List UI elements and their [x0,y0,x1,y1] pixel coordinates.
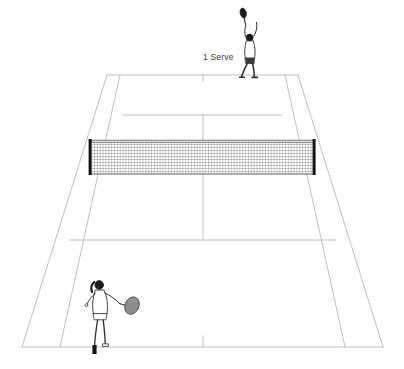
net-mesh [91,141,314,174]
server-right-arm [254,22,257,36]
singles-sideline-right [285,75,345,347]
receiver-head [95,281,104,290]
server-torso [245,41,255,58]
receiver-ponytail [91,282,94,292]
receiver-right-leg [103,320,105,344]
net-post-right [313,139,316,175]
net-post-left [89,139,92,175]
singles-sideline-left [60,75,120,347]
court-svg-canvas [0,0,404,369]
player-server [239,7,257,77]
receiver-right-shoe [103,344,109,347]
receiver-racket-icon [119,295,142,317]
net-top-band [91,140,314,142]
tennis-net [89,139,316,175]
server-racket-icon [239,7,247,25]
receiver-left-leg [95,320,98,345]
serve-label: 1 Serve [203,52,234,62]
doubles-sideline-right [298,75,383,347]
server-left-arm [245,26,246,37]
server-head [246,34,253,41]
player-receiver [85,281,142,354]
receiver-skirt [93,314,107,320]
receiver-left-hand [85,304,88,307]
tennis-court-diagram: 1 Serve [0,0,404,369]
court-lines [22,75,383,347]
receiver-left-shoe [92,345,96,354]
server-shorts [245,58,254,63]
